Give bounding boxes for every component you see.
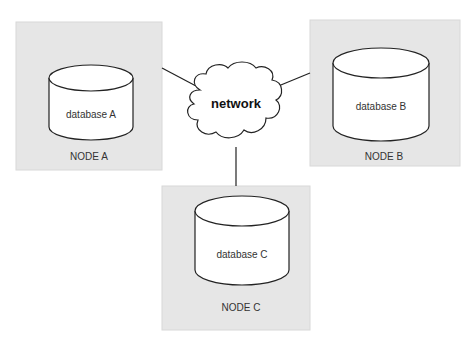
database-a-cylinder-icon[interactable] xyxy=(49,65,133,140)
connector-a-network xyxy=(162,68,196,86)
database-c-cylinder-icon[interactable] xyxy=(195,196,289,285)
node-c-label: NODE C xyxy=(222,302,261,313)
database-b-cylinder-icon[interactable] xyxy=(333,48,429,141)
node-a-label: NODE A xyxy=(70,151,108,162)
node-b-label: NODE B xyxy=(365,151,403,162)
database-b-label: database B xyxy=(356,101,407,112)
database-c-label: database C xyxy=(216,249,267,260)
connector-b-network xyxy=(276,73,310,87)
network-label: network xyxy=(211,96,261,111)
diagram-canvas xyxy=(0,0,475,340)
database-a-label: database A xyxy=(66,109,116,120)
